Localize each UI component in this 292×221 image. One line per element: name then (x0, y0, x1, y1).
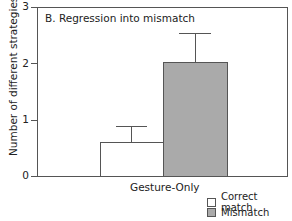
y-tick-2 (31, 63, 37, 64)
y-tick-label-2: 2 (20, 57, 29, 69)
y-tick-label-0: 0 (20, 169, 29, 181)
legend-swatch-gray (207, 208, 216, 217)
chart-title: B. Regression into mismatch (45, 12, 195, 24)
error-bar-mismatch (195, 33, 196, 62)
bar-mismatch (163, 62, 228, 177)
legend-swatch-white (207, 198, 216, 207)
y-tick-label-1: 1 (20, 113, 29, 125)
y-tick-3 (31, 7, 37, 8)
y-axis-label: Number of different strategies (7, 26, 19, 156)
legend-label: Mismatch (221, 207, 269, 218)
error-bar-correct-match (131, 126, 132, 142)
legend-item-mismatch: Mismatch (207, 207, 269, 218)
y-tick-label-3: 3 (20, 0, 29, 12)
y-tick-0 (31, 176, 37, 177)
error-cap-mismatch (179, 33, 211, 34)
bar-correct-match (100, 142, 164, 177)
x-category-label: Gesture-Only (130, 181, 200, 193)
error-cap-correct-match (116, 126, 147, 127)
y-tick-1 (31, 120, 37, 121)
